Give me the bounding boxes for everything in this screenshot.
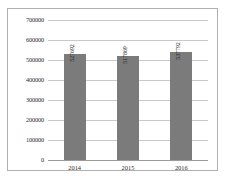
y-axis-tick-label: 700000 — [26, 17, 44, 23]
y-axis-tick-label: 400000 — [26, 77, 44, 83]
y-axis-tick-label: 0 — [41, 157, 44, 163]
bar[interactable] — [64, 54, 86, 160]
y-axis-tick-label: 500000 — [26, 57, 44, 63]
y-axis-tick-label: 600000 — [26, 37, 44, 43]
y-axis-tick-label: 300000 — [26, 97, 44, 103]
bar-value-label: 537792 — [175, 43, 181, 60]
bars-group: 527692201451786920155377922016 — [48, 20, 208, 160]
bar[interactable] — [170, 52, 192, 160]
x-axis-tick-label: 2016 — [175, 165, 188, 171]
chart-frame: 7000006000005000004000003000002000001000… — [7, 8, 218, 171]
y-axis-tick-label: 100000 — [26, 137, 44, 143]
bar[interactable] — [117, 56, 139, 160]
bar-value-label: 527692 — [69, 45, 75, 62]
bar-slot: 5276922014 — [48, 20, 101, 160]
plot-area: 7000006000005000004000003000002000001000… — [48, 20, 208, 160]
bar-value-label: 517869 — [122, 47, 128, 64]
bar-slot: 5178692015 — [101, 20, 154, 160]
gridline: 0 — [48, 160, 208, 161]
x-axis-tick-label: 2015 — [122, 165, 135, 171]
y-axis-tick-label: 200000 — [26, 117, 44, 123]
bar-slot: 5377922016 — [155, 20, 208, 160]
x-axis-tick-label: 2014 — [68, 165, 81, 171]
